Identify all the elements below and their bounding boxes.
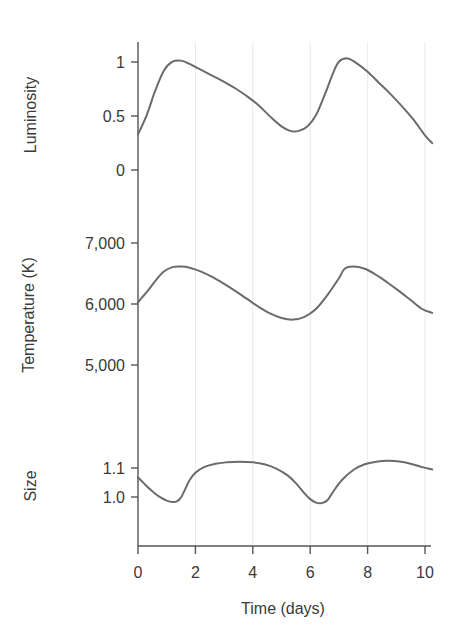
xtick-label-10: 10	[416, 564, 434, 581]
ytick-label-luminosity-half: 0.5	[103, 108, 125, 125]
stellar-pulsation-figure: 1 0.5 0 Luminosity 7,000 6,000 5,000 Tem…	[0, 0, 455, 636]
axis-title-time: Time (days)	[241, 600, 325, 617]
ytick-label-size-1.1: 1.1	[103, 460, 125, 477]
xtick-label-6: 6	[306, 564, 315, 581]
ytick-label-temperature-7000: 7,000	[85, 235, 125, 252]
panel-temperature: 7,000 6,000 5,000 Temperature (K)	[20, 235, 432, 374]
series-line-size	[138, 461, 432, 503]
ytick-label-size-1.0: 1.0	[103, 489, 125, 506]
axis-title-temperature: Temperature (K)	[20, 257, 37, 373]
xtick-label-4: 4	[248, 564, 257, 581]
panel-luminosity: 1 0.5 0 Luminosity	[22, 54, 432, 179]
axis-title-luminosity: Luminosity	[22, 77, 39, 153]
panel-size: 1.1 1.0 Size	[22, 460, 432, 506]
axis-title-size: Size	[22, 470, 39, 501]
ytick-label-temperature-6000: 6,000	[85, 296, 125, 313]
xtick-label-0: 0	[134, 564, 143, 581]
series-line-temperature	[138, 266, 432, 319]
gridlines	[195, 42, 425, 546]
chart-canvas: 1 0.5 0 Luminosity 7,000 6,000 5,000 Tem…	[0, 0, 455, 636]
ytick-label-luminosity-1: 1	[116, 54, 125, 71]
series-line-luminosity	[138, 58, 432, 143]
xtick-label-8: 8	[363, 564, 372, 581]
x-axis: 0 2 4 6 8 10 Time (days)	[134, 546, 434, 617]
xtick-label-2: 2	[191, 564, 200, 581]
ytick-label-temperature-5000: 5,000	[85, 357, 125, 374]
ytick-label-luminosity-0: 0	[116, 162, 125, 179]
